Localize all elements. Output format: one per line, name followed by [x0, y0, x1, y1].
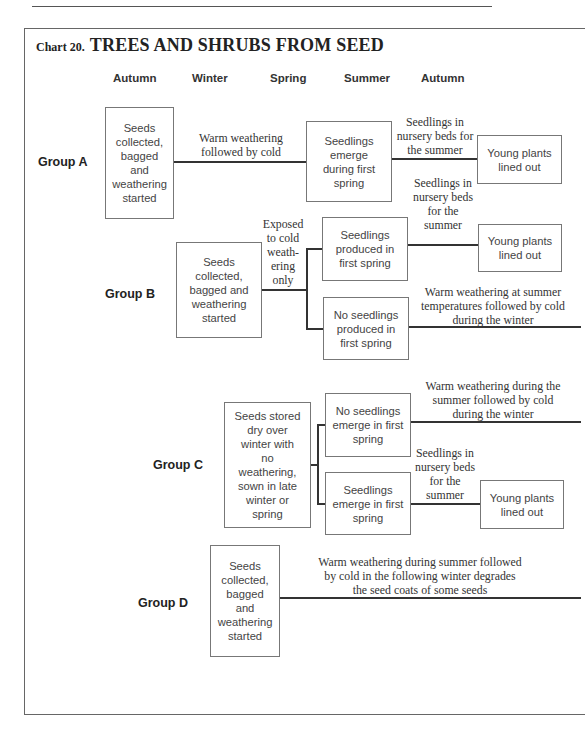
season-autumn-2: Autumn	[421, 72, 464, 84]
page-header-rule	[32, 6, 492, 7]
group-b-branch-no-box: No seedlings produced in first spring	[323, 297, 409, 360]
group-b-branch-yes-text: Seedlings produced in first spring	[336, 228, 394, 270]
group-b-branch-line	[306, 248, 308, 330]
group-c-connector-no	[411, 421, 581, 423]
group-c-branch-yes-box: Seedlings emerge in first spring	[325, 472, 411, 535]
group-c-start-box: Seeds stored dry over winter with no wea…	[224, 402, 311, 528]
group-a-mid-text: Seedlings emerge during first spring	[323, 134, 375, 190]
season-summer: Summer	[344, 72, 390, 84]
group-c-end-box: Young plants lined out	[480, 480, 564, 529]
group-c-link-no: Warm weathering during the summer follow…	[406, 379, 580, 421]
group-d-start-text: Seeds collected, bagged and weathering s…	[218, 559, 273, 643]
group-a-link-2: Seedlings in nursery beds for the summer	[388, 115, 482, 157]
season-winter: Winter	[192, 72, 228, 84]
group-c-label: Group C	[153, 458, 203, 472]
group-a-end-text: Young plants lined out	[487, 146, 551, 174]
group-a-connector-1	[174, 161, 308, 163]
group-a-link-1: Warm weathering followed by cold	[174, 131, 308, 159]
season-spring: Spring	[270, 72, 306, 84]
group-c-branch-no-text: No seedlings emerge in first spring	[333, 404, 404, 446]
group-a-start-text: Seeds collected, bagged and weathering s…	[112, 121, 167, 205]
group-c-end-text: Young plants lined out	[490, 491, 554, 519]
group-c-link-yes: Seedlings in nursery beds for the summer	[406, 446, 484, 502]
group-a-start-box: Seeds collected, bagged and weathering s…	[105, 107, 174, 219]
group-b-branch-no-text: No seedlings produced in first spring	[334, 308, 399, 350]
group-b-branch-no-connector	[306, 328, 323, 330]
group-b-branch-yes-connector	[306, 248, 323, 250]
chart-number: Chart 20.	[36, 40, 85, 54]
chart-title: Chart 20. TREES AND SHRUBS FROM SEED	[36, 35, 384, 56]
group-b-link-no: Warm weathering at summer temperatures f…	[404, 285, 582, 327]
season-autumn-1: Autumn	[113, 72, 156, 84]
chart-heading: TREES AND SHRUBS FROM SEED	[90, 35, 384, 55]
group-b-end-text: Young plants lined out	[488, 234, 552, 262]
group-c-branch-line	[317, 424, 319, 505]
group-b-start-box: Seeds collected, bagged and weathering s…	[176, 242, 262, 338]
group-a-mid-box: Seedlings emerge during first spring	[306, 121, 392, 202]
group-c-start-text: Seeds stored dry over winter with no wea…	[235, 409, 301, 521]
group-c-branch-no-box: No seedlings emerge in first spring	[325, 393, 411, 457]
group-c-connector-yes	[411, 503, 481, 505]
group-b-label: Group B	[105, 287, 155, 301]
group-b-connector-1	[262, 289, 307, 291]
group-a-connector-2	[392, 158, 478, 160]
group-b-branch-yes-box: Seedlings produced in first spring	[322, 217, 408, 281]
group-d-link-1: Warm weathering during summer followed b…	[290, 555, 550, 597]
group-a-label: Group A	[38, 155, 88, 169]
group-b-link-yes: Seedlings in nursery beds for the summer	[404, 176, 482, 232]
group-b-link-1: Exposed to cold weath- ering only	[260, 217, 306, 287]
group-d-label: Group D	[138, 596, 188, 610]
group-b-start-text: Seeds collected, bagged and weathering s…	[189, 255, 248, 325]
group-c-branch-yes-text: Seedlings emerge in first spring	[333, 483, 404, 525]
group-b-connector-yes	[408, 244, 478, 246]
group-b-end-box: Young plants lined out	[478, 224, 562, 272]
group-d-start-box: Seeds collected, bagged and weathering s…	[210, 545, 280, 657]
group-a-end-box: Young plants lined out	[477, 135, 562, 184]
group-d-connector-1	[280, 597, 581, 599]
